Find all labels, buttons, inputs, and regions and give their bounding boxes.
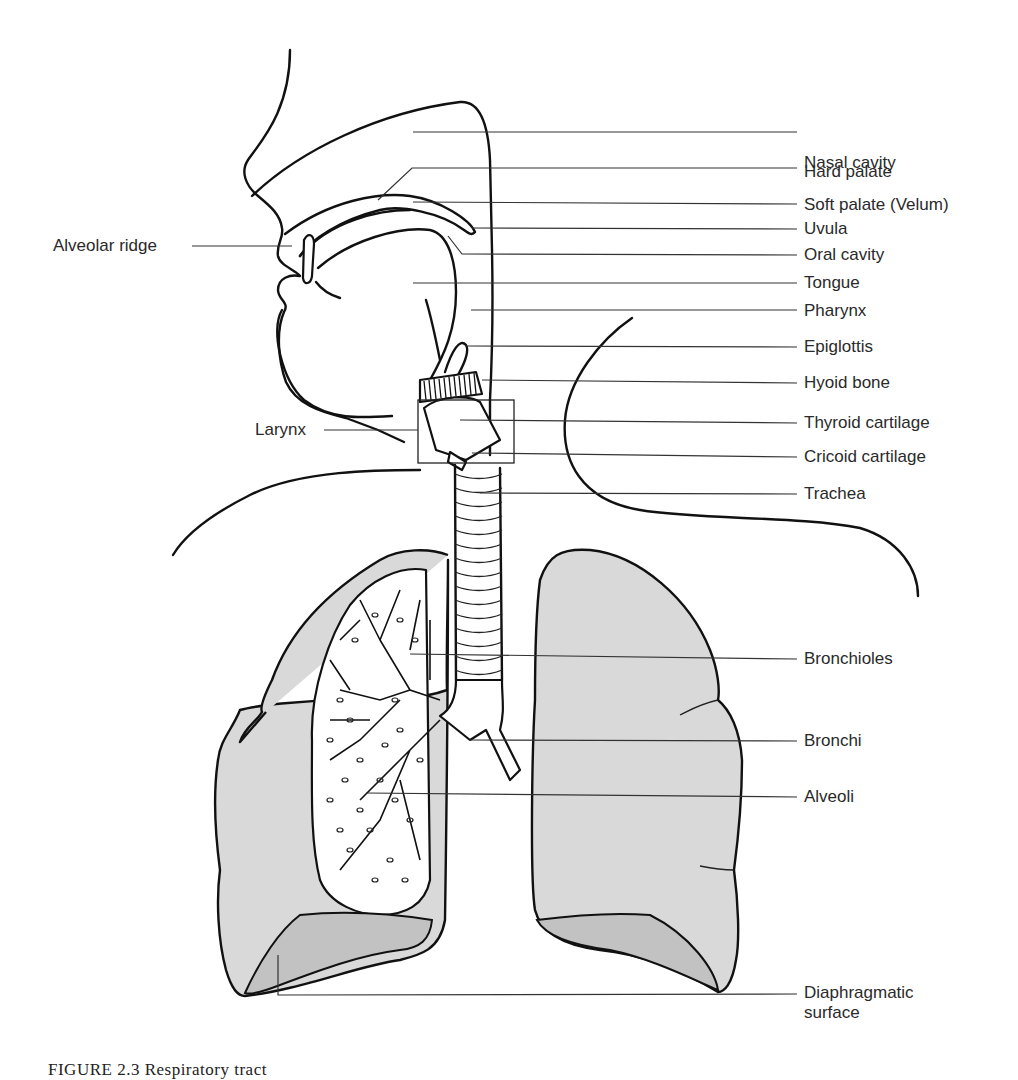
epiglottis-shape (445, 343, 467, 375)
label-pharynx: Pharynx (804, 301, 866, 321)
label-tongue: Tongue (804, 273, 860, 293)
label-bronchi: Bronchi (804, 731, 862, 751)
label-hard-palate: Hard palate (804, 162, 892, 182)
label-soft-palate: Soft palate (Velum) (804, 195, 949, 215)
label-alveolar-ridge: Alveolar ridge (53, 236, 157, 256)
label-alveoli: Alveoli (804, 787, 854, 807)
trachea-shape (455, 465, 502, 680)
label-diaphragmatic: Diaphragmatic (804, 983, 914, 1003)
label-epiglottis: Epiglottis (804, 337, 873, 357)
label-surface: surface (804, 1003, 860, 1023)
label-cricoid-cartilage: Cricoid cartilage (804, 447, 926, 467)
label-oral-cavity: Oral cavity (804, 245, 884, 265)
label-bronchioles: Bronchioles (804, 649, 893, 669)
figure-caption: FIGURE 2.3 Respiratory tract (48, 1060, 267, 1080)
label-trachea: Trachea (804, 484, 866, 504)
label-thyroid-cartilage: Thyroid cartilage (804, 413, 930, 433)
left-side-lung (215, 550, 448, 996)
label-larynx: Larynx (255, 420, 306, 440)
label-uvula: Uvula (804, 219, 847, 239)
right-side-lung (532, 550, 742, 992)
label-hyoid-bone: Hyoid bone (804, 373, 890, 393)
thyroid-cartilage-shape (424, 397, 500, 460)
bronchi-shape (440, 680, 520, 780)
